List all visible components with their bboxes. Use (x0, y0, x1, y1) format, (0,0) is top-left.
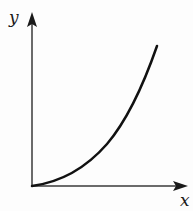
plot-area (0, 0, 193, 211)
y-axis-label: y (9, 9, 19, 26)
data-curve (32, 46, 157, 186)
x-axis-label: x (180, 192, 190, 209)
chart-figure: y x (0, 0, 193, 211)
